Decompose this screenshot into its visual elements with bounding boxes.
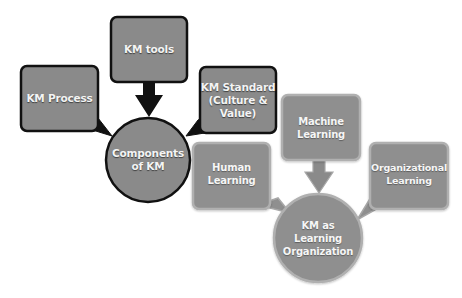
km-tools-label: KM tools: [111, 17, 187, 82]
machine-learning-label: Machine Learning: [282, 95, 360, 160]
km-standard-label: KM Standard (Culture & Value): [200, 67, 276, 133]
machine-learning-arrow-icon: [305, 160, 333, 193]
km-process-label: KM Process: [21, 66, 98, 131]
human-learning-label: Human Learning: [193, 143, 270, 205]
km-learning-organization-label: KM as Learning Organization: [274, 194, 362, 282]
organizational-learning-label: Organizational Learning: [368, 143, 450, 205]
km-tools-arrow-icon: [135, 82, 163, 117]
components-of-km-label: Components of KM: [106, 118, 190, 202]
